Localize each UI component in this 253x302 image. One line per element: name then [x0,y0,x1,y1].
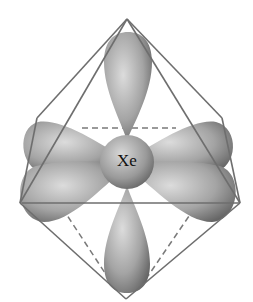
central-atom-label: Xe [101,151,153,171]
octahedron-diagram: Xe [0,0,253,302]
lobe-bottom [104,186,150,293]
